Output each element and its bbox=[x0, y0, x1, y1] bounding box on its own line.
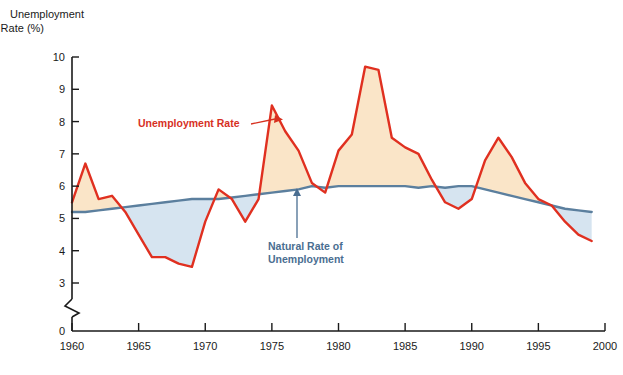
x-tick-label: 1985 bbox=[393, 340, 417, 352]
unemployment-rate-chart: Unemployment Rate (%) 0345678910 1960196… bbox=[0, 0, 623, 375]
natural-rate-annotation-label-line1: Natural Rate of bbox=[268, 240, 343, 252]
unemployment-rate-annotation: Unemployment Rate bbox=[138, 115, 283, 129]
x-tick-label: 1975 bbox=[260, 340, 284, 352]
x-axis: 196019651970197519801985199019952000 bbox=[60, 323, 617, 352]
x-tick-label: 2000 bbox=[593, 340, 617, 352]
x-tick-label: 1970 bbox=[193, 340, 217, 352]
x-tick-label: 1990 bbox=[460, 340, 484, 352]
y-tick-label: 4 bbox=[59, 245, 65, 257]
y-axis-label-line2: Rate (%) bbox=[1, 22, 44, 34]
y-tick-label: 0 bbox=[59, 325, 65, 337]
y-tick-label: 9 bbox=[59, 83, 65, 95]
plot-area bbox=[72, 67, 592, 267]
unemployment-rate-annotation-label: Unemployment Rate bbox=[138, 117, 240, 129]
natural-rate-annotation: Natural Rate of Unemployment bbox=[268, 188, 344, 265]
natural-rate-annotation-label-line2: Unemployment bbox=[268, 253, 344, 265]
x-tick-label: 1960 bbox=[60, 340, 84, 352]
x-tick-label: 1980 bbox=[326, 340, 350, 352]
y-tick-label: 8 bbox=[59, 116, 65, 128]
y-tick-label: 3 bbox=[59, 277, 65, 289]
y-tick-label: 6 bbox=[59, 180, 65, 192]
y-tick-label: 10 bbox=[53, 51, 65, 63]
y-tick-label: 7 bbox=[59, 148, 65, 160]
y-tick-label: 5 bbox=[59, 212, 65, 224]
area-fills bbox=[72, 67, 592, 267]
x-tick-label: 1995 bbox=[526, 340, 550, 352]
chart-canvas: Unemployment Rate (%) 0345678910 1960196… bbox=[0, 0, 623, 375]
x-tick-label: 1965 bbox=[126, 340, 150, 352]
y-axis-label-line1: Unemployment bbox=[10, 8, 84, 20]
